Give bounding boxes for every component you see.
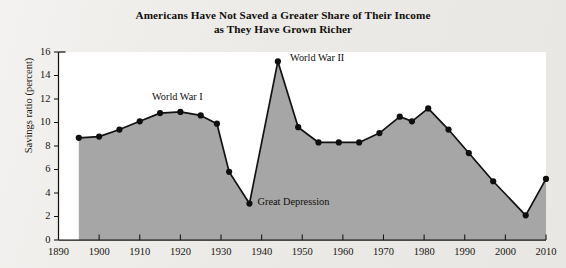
- data-point: [275, 58, 281, 64]
- data-point: [376, 130, 382, 136]
- data-point: [490, 178, 496, 184]
- data-point: [315, 139, 321, 145]
- data-point: [137, 118, 143, 124]
- data-point: [177, 109, 183, 115]
- y-tick-label: 8: [45, 140, 50, 151]
- data-point: [425, 105, 431, 111]
- x-tick-label: 1970: [373, 246, 394, 257]
- x-tick-label: 1960: [332, 246, 353, 257]
- data-point: [198, 112, 204, 118]
- data-point: [246, 200, 252, 206]
- data-point: [96, 134, 102, 140]
- x-tick-label: 1910: [129, 246, 150, 257]
- y-tick-label: 16: [40, 46, 51, 57]
- chart-svg: 0246810121416 18901900191019201930194019…: [0, 0, 566, 268]
- data-point: [157, 110, 163, 116]
- annotation-label: World War II: [290, 52, 345, 63]
- y-tick-label: 4: [45, 187, 51, 198]
- x-tick-label: 1940: [251, 246, 272, 257]
- x-tick-label: 2000: [495, 246, 516, 257]
- data-point: [523, 212, 529, 218]
- x-tick-label: 1990: [454, 246, 475, 257]
- y-tick-label: 0: [45, 234, 50, 245]
- annotation-label: World War I: [152, 91, 203, 102]
- x-tick-label: 1890: [48, 246, 69, 257]
- data-point: [356, 139, 362, 145]
- plot-area: 0246810121416 18901900191019201930194019…: [0, 0, 566, 268]
- x-tick-label: 1980: [414, 246, 435, 257]
- data-point: [214, 121, 220, 127]
- y-tick-label: 12: [40, 93, 51, 104]
- y-axis-ticks: 0246810121416: [40, 46, 59, 245]
- x-tick-label: 2010: [536, 246, 557, 257]
- x-tick-label: 1920: [170, 246, 191, 257]
- data-point: [336, 139, 342, 145]
- data-point: [543, 176, 549, 182]
- x-tick-label: 1930: [211, 246, 232, 257]
- figure-container: Americans Have Not Saved a Greater Share…: [0, 0, 566, 268]
- y-tick-label: 14: [40, 69, 51, 80]
- y-tick-label: 10: [40, 116, 51, 127]
- annotation-label: Great Depression: [258, 196, 330, 207]
- data-point: [226, 169, 232, 175]
- data-point: [397, 114, 403, 120]
- x-tick-label: 1950: [292, 246, 313, 257]
- y-tick-label: 2: [45, 210, 50, 221]
- data-point: [76, 135, 82, 141]
- x-tick-label: 1900: [89, 246, 110, 257]
- data-point: [116, 126, 122, 132]
- data-point: [466, 150, 472, 156]
- y-tick-label: 6: [45, 163, 50, 174]
- data-point: [445, 126, 451, 132]
- data-point: [295, 124, 301, 130]
- data-point: [409, 118, 415, 124]
